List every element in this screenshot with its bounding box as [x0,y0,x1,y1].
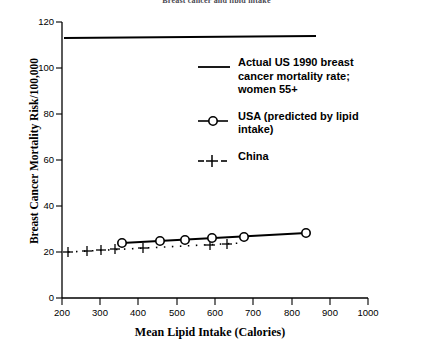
legend-label-china: China [238,150,269,164]
chart-legend: Actual US 1990 breast cancer mortality r… [196,56,428,182]
circle-line-key-icon [196,113,238,129]
y-tick-label-120: 120 [28,16,54,27]
x-axis-ticks [62,298,368,305]
legend-item-actual-us: Actual US 1990 breast cancer mortality r… [196,56,428,97]
x-tick-label-700: 700 [233,307,273,318]
legend-label-usa-predicted: USA (predicted by lipid intake) [238,110,359,137]
y-axis-ticks [56,22,62,298]
x-tick-label-500: 500 [157,307,197,318]
x-tick-label-900: 900 [310,307,350,318]
x-tick-label-300: 300 [80,307,120,318]
x-tick-label-200: 200 [42,307,82,318]
y-tick-label-0: 0 [28,292,54,303]
legend-item-usa-predicted: USA (predicted by lipid intake) [196,110,428,137]
legend-item-china: China [196,150,428,169]
x-tick-label-800: 800 [272,307,312,318]
y-axis-title: Breast Cancer Mortality Risk/100,000 [28,31,40,271]
x-tick-label-600: 600 [195,307,235,318]
chart-container: Breast cancer and lipid intake [0,0,433,354]
series-actual-us-reference-line [64,36,316,38]
x-tick-label-400: 400 [118,307,158,318]
dashed-plus-key-icon [196,153,238,169]
x-tick-label-1000: 1000 [348,307,388,318]
solid-line-key-icon [196,59,238,75]
x-axis-title: Mean Lipid Intake (Calories) [40,325,380,340]
legend-label-actual-us: Actual US 1990 breast cancer mortality r… [238,56,354,97]
